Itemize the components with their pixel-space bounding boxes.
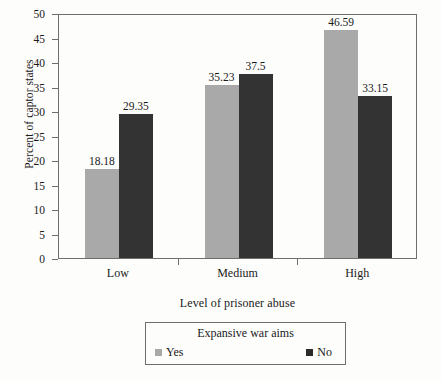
bar-value-label: 33.15 (350, 82, 400, 94)
x-axis-tick-mark (297, 259, 298, 265)
x-axis-title: Level of prisoner abuse (58, 296, 417, 311)
y-axis-tick-label: 0 (39, 251, 45, 267)
legend-swatch-yes-icon (155, 349, 162, 356)
legend-entry-no: No (306, 345, 332, 360)
y-axis-tick-label: 15 (34, 178, 46, 194)
x-axis-category-high: High (307, 266, 407, 281)
chart-page: Percent of captor states 051015202530354… (0, 0, 442, 380)
legend: Expansive war aims Yes No (145, 322, 346, 365)
bar-medium-no (239, 74, 273, 258)
legend-label-yes: Yes (166, 345, 183, 360)
y-axis-tick-label: 20 (34, 153, 46, 169)
legend-label-no: No (317, 345, 332, 360)
y-axis-tick-label: 25 (34, 129, 46, 145)
y-axis-tick-label: 40 (34, 55, 46, 71)
legend-title: Expansive war aims (146, 326, 345, 341)
y-axis-tick-label: 35 (34, 80, 46, 96)
plot-area: 18.1829.3535.2337.546.5933.15 (58, 14, 417, 259)
y-axis-tick-label: 30 (34, 104, 46, 120)
y-axis-tick-label: 5 (39, 227, 45, 243)
bar-medium-yes (205, 85, 239, 258)
y-axis-tick-mark (52, 259, 58, 260)
x-axis-category-medium: Medium (188, 266, 288, 281)
y-axis-tick-label: 10 (34, 202, 46, 218)
legend-entry-yes: Yes (155, 345, 183, 360)
legend-swatch-no-icon (306, 349, 313, 356)
bar-low-no (119, 114, 153, 258)
bar-value-label: 46.59 (316, 16, 366, 28)
bar-low-yes (85, 169, 119, 258)
bar-value-label: 29.35 (111, 100, 161, 112)
y-axis-tick-label: 45 (34, 31, 46, 47)
bar-value-label: 37.5 (231, 60, 281, 72)
bar-high-no (358, 96, 392, 258)
y-axis-tick-label: 50 (34, 6, 46, 22)
x-axis-tick-mark (178, 259, 179, 265)
x-axis-category-low: Low (68, 266, 168, 281)
bar-high-yes (324, 30, 358, 258)
